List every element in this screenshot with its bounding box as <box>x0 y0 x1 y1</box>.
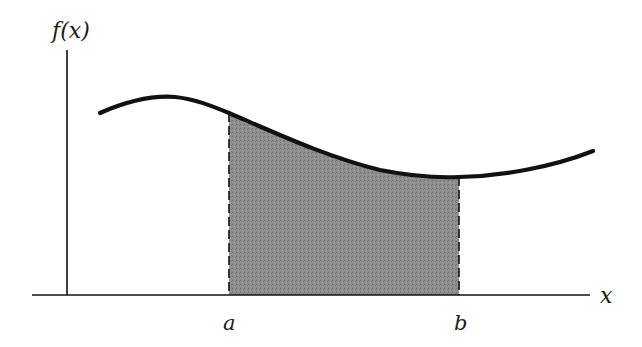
upper-bound-label: b <box>454 311 467 335</box>
x-axis-label: x <box>600 283 613 308</box>
integral-area-diagram: f(x) x a b <box>0 0 642 347</box>
lower-bound-label: a <box>223 311 236 335</box>
shaded-area <box>229 113 459 295</box>
y-axis-label: f(x) <box>50 18 90 43</box>
